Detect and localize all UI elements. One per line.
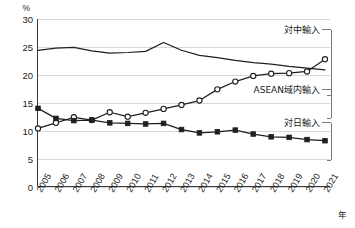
series-callout-labels: 対中輸入ASEAN域内輸入対日輸入 [254, 24, 331, 160]
data-point-marker [36, 106, 41, 111]
y-tick-20: 20 [22, 70, 33, 81]
data-point-marker [287, 135, 292, 140]
data-point-marker [143, 122, 148, 127]
y-tick-10: 10 [22, 126, 33, 137]
series-1 [38, 42, 325, 69]
x-tick-2011: 2011 [142, 172, 160, 194]
data-point-marker [179, 102, 184, 107]
x-tick-2016: 2016 [232, 172, 251, 194]
data-point-marker [197, 131, 202, 136]
x-tick-2021: 2021 [322, 172, 341, 194]
data-point-marker [233, 128, 238, 133]
line-chart: 051015202530 % 2005200620072008200920102… [0, 0, 355, 228]
x-tick-2006: 2006 [53, 172, 72, 194]
callout-label-1: 対中輸入 [284, 24, 320, 35]
data-point-marker [161, 106, 166, 111]
x-tick-2020: 2020 [304, 172, 323, 194]
x-axis-unit-label: 年 [338, 210, 347, 220]
x-tick-2013: 2013 [178, 172, 197, 194]
data-point-marker [269, 71, 274, 76]
data-point-marker [251, 132, 256, 137]
data-point-marker [215, 87, 220, 92]
x-tick-2014: 2014 [196, 172, 215, 194]
chart-container: 051015202530 % 2005200620072008200920102… [0, 0, 355, 228]
data-point-marker [269, 135, 274, 140]
data-point-marker [179, 127, 184, 132]
data-point-marker [233, 79, 238, 84]
data-point-marker [161, 121, 166, 126]
y-tick-0: 0 [28, 182, 33, 193]
x-tick-2009: 2009 [106, 172, 125, 194]
data-point-marker [143, 110, 148, 115]
data-point-marker [90, 118, 95, 123]
data-point-marker [287, 71, 292, 76]
x-tick-2007: 2007 [70, 172, 89, 194]
y-tick-5: 5 [28, 154, 33, 165]
data-point-marker [35, 126, 40, 131]
data-point-marker [322, 57, 327, 62]
data-point-marker [304, 69, 309, 74]
y-tick-30: 30 [22, 14, 33, 25]
x-tick-2018: 2018 [268, 172, 287, 194]
data-point-marker [54, 116, 59, 121]
data-point-marker [125, 121, 130, 126]
data-point-marker [215, 129, 220, 134]
series-line [38, 108, 325, 140]
data-point-marker [197, 98, 202, 103]
x-tick-2012: 2012 [160, 172, 179, 194]
x-tick-2019: 2019 [286, 172, 305, 194]
data-point-marker [251, 73, 256, 78]
data-point-marker [72, 118, 77, 123]
callout-label-2: ASEAN域内輸入 [254, 84, 320, 95]
data-point-marker [107, 110, 112, 115]
y-tick-25: 25 [22, 42, 33, 53]
y-axis-unit-label: % [22, 3, 30, 13]
callout-label-3: 対日輸入 [284, 117, 320, 128]
data-point-marker [125, 114, 130, 119]
x-tick-2010: 2010 [124, 172, 143, 194]
series-line [38, 42, 325, 69]
x-axis-tick-labels: 2005200620072008200920102011201220132014… [35, 172, 341, 194]
x-tick-2017: 2017 [250, 172, 269, 194]
y-tick-15: 15 [22, 98, 33, 109]
y-axis-tick-labels: 051015202530 [22, 14, 33, 193]
x-tick-2008: 2008 [88, 172, 107, 194]
data-point-marker [107, 121, 112, 126]
x-tick-2015: 2015 [214, 172, 233, 194]
data-point-marker [305, 137, 310, 142]
data-point-marker [323, 138, 328, 143]
callout-leader-1 [322, 30, 331, 96]
